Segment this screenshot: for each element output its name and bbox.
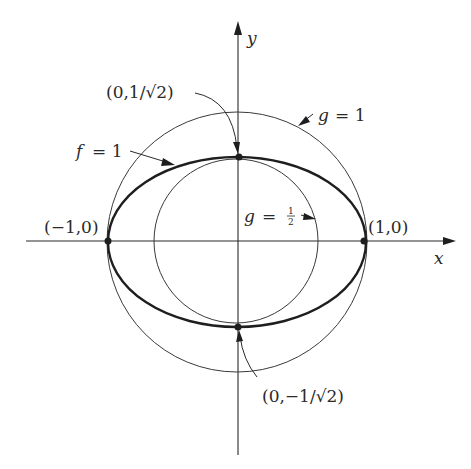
- y-axis-label: y: [246, 28, 257, 48]
- level-curves-figure: y x (0,1/√2) (0,−1/√2) (−1,0) (1,0) f = …: [0, 0, 471, 469]
- label-f-eq: = 1: [92, 141, 122, 161]
- leader-top: [195, 93, 237, 148]
- label-f: f: [74, 141, 85, 161]
- point-top: [236, 154, 243, 161]
- point-bottom: [235, 324, 242, 331]
- label-right-point: (1,0): [368, 217, 408, 237]
- x-axis: [26, 237, 456, 245]
- point-right: [361, 238, 368, 245]
- label-g-half-eq: =: [262, 206, 276, 226]
- x-axis-label: x: [434, 248, 444, 268]
- leader-bottom-arrow-icon: [236, 330, 243, 342]
- label-bottom-point: (0,−1/√2): [262, 386, 344, 406]
- y-axis-arrow-icon: [234, 21, 242, 35]
- label-g-half: g: [244, 206, 255, 226]
- label-left-point: (−1,0): [44, 217, 99, 237]
- x-axis-arrow-icon: [443, 237, 456, 245]
- ellipse-f-1: [108, 157, 366, 327]
- label-g-half-den: 2: [288, 217, 294, 227]
- label-g1-eq: = 1: [335, 105, 365, 125]
- leader-f-arrow-icon: [161, 158, 175, 166]
- leader-top-arrow-icon: [233, 142, 240, 154]
- y-axis: [234, 21, 242, 455]
- label-g1: g: [318, 105, 329, 125]
- label-top-point: (0,1/√2): [106, 82, 174, 102]
- point-left: [105, 238, 112, 245]
- label-g-half-num: 1: [288, 206, 294, 216]
